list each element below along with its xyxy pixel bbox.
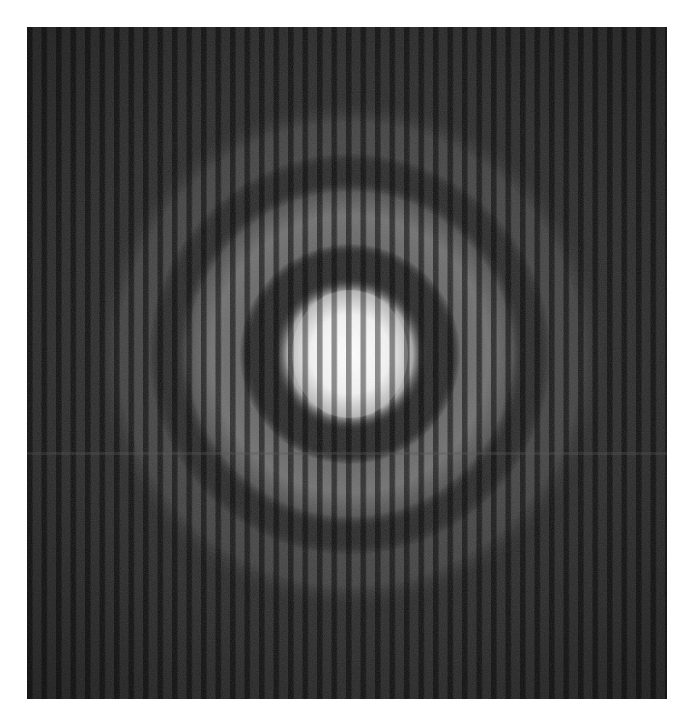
image-canvas xyxy=(0,0,692,726)
interference-pattern-image xyxy=(27,27,667,699)
interferogram-graphic xyxy=(27,27,667,699)
edge-vignette xyxy=(27,27,667,699)
